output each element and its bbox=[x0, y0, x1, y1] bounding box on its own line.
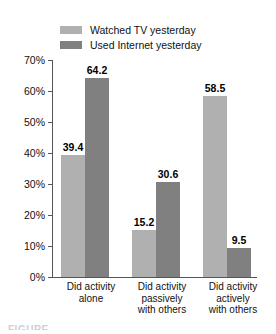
bar-value-label: 15.2 bbox=[134, 216, 154, 228]
bar-group: 58.59.5 bbox=[199, 60, 267, 277]
bar-value-label: 58.5 bbox=[205, 82, 225, 94]
legend-swatch-icon-watched-tv bbox=[60, 26, 82, 34]
x-axis-label-line: Did activity bbox=[196, 281, 270, 293]
y-tick-label: 70% bbox=[24, 54, 45, 66]
x-axis-label-line: with others bbox=[125, 304, 199, 316]
x-axis-label-line: Did activity bbox=[125, 281, 199, 293]
bar: 9.5 bbox=[227, 248, 251, 277]
x-axis-label-line: with others bbox=[196, 304, 270, 316]
y-tick-label: 20% bbox=[24, 209, 45, 221]
bar: 30.6 bbox=[156, 182, 180, 277]
bar-value-label: 39.4 bbox=[63, 141, 83, 153]
figure-caption-cropped: FIGURE bbox=[8, 325, 70, 330]
y-tick-label: 0% bbox=[30, 271, 45, 283]
y-tick-label: 30% bbox=[24, 178, 45, 190]
bar-value-label: 64.2 bbox=[87, 64, 107, 76]
y-tick-label: 50% bbox=[24, 116, 45, 128]
x-axis-label: Did activitypassivelywith others bbox=[125, 281, 199, 316]
x-axis-label: Did activityactivelywith others bbox=[196, 281, 270, 316]
y-tick-label: 60% bbox=[24, 85, 45, 97]
bar: 39.4 bbox=[61, 155, 85, 277]
y-tick-0%: 0% bbox=[52, 277, 53, 278]
x-axis-category-labels: Did activityaloneDid activitypassivelywi… bbox=[53, 281, 257, 327]
y-tick-label: 40% bbox=[24, 147, 45, 159]
x-axis-label-line: Did activity bbox=[54, 281, 128, 293]
legend-item-used-internet: Used Internet yesterday bbox=[60, 38, 260, 52]
legend-label-watched-tv: Watched TV yesterday bbox=[90, 25, 196, 36]
bar-value-label: 9.5 bbox=[232, 234, 247, 246]
x-axis-label: Did activityalone bbox=[54, 281, 128, 304]
bar: 64.2 bbox=[85, 78, 109, 277]
x-axis-label-line: actively bbox=[196, 293, 270, 305]
bar-group: 15.230.6 bbox=[128, 60, 196, 277]
legend-swatch-icon-used-internet bbox=[60, 41, 82, 49]
figure-bar-chart: Watched TV yesterday Used Internet yeste… bbox=[0, 0, 276, 334]
chart-legend: Watched TV yesterday Used Internet yeste… bbox=[60, 23, 260, 53]
legend-item-watched-tv: Watched TV yesterday bbox=[60, 23, 260, 37]
x-axis-label-line: passively bbox=[125, 293, 199, 305]
y-tick-mark bbox=[48, 277, 53, 278]
plot-area: 0%10%20%30%40%50%60%70% 39.464.215.230.6… bbox=[52, 60, 252, 277]
bar: 15.2 bbox=[132, 230, 156, 277]
bar: 58.5 bbox=[203, 96, 227, 277]
x-axis-line bbox=[52, 277, 257, 278]
y-tick-label: 10% bbox=[24, 240, 45, 252]
x-axis-label-line: alone bbox=[54, 293, 128, 305]
bar-series-container: 39.464.215.230.658.59.5 bbox=[53, 60, 257, 277]
legend-label-used-internet: Used Internet yesterday bbox=[90, 40, 201, 51]
bar-group: 39.464.2 bbox=[57, 60, 125, 277]
bar-value-label: 30.6 bbox=[158, 168, 178, 180]
